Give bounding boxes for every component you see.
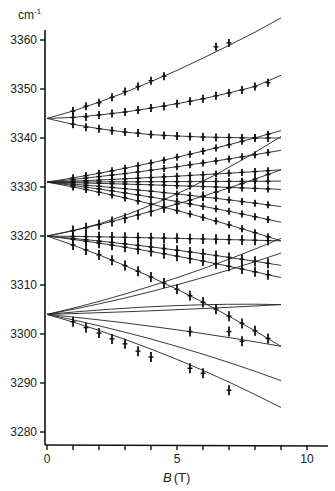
zeeman-fan-chart: 328032903300331033203330334033503360 051… — [0, 0, 335, 491]
y-tick-labels: 328032903300331033203330334033503360 — [10, 33, 37, 439]
y-tick-label: 3360 — [10, 33, 37, 47]
y-tick-label: 3300 — [10, 327, 37, 341]
x-axis — [45, 445, 328, 446]
y-tick-label: 3350 — [10, 82, 37, 96]
y-tick-label: 3290 — [10, 376, 37, 390]
x-axis-label: B(T) — [163, 470, 190, 485]
y-tick-label: 3280 — [10, 425, 37, 439]
y-tick-label: 3330 — [10, 180, 37, 194]
x-tick-label: 0 — [44, 452, 51, 466]
y-tick-label: 3310 — [10, 278, 37, 292]
fit-curve — [47, 314, 281, 346]
y-axis-unit: cm-1 — [18, 7, 42, 22]
y-tick-label: 3340 — [10, 131, 37, 145]
axes — [45, 30, 328, 446]
x-tick-labels: 0510 — [44, 452, 314, 466]
y-tick-label: 3320 — [10, 229, 37, 243]
fit-curve — [47, 75, 281, 118]
data-points — [71, 39, 271, 395]
x-tick-label: 10 — [300, 452, 314, 466]
fit-curve — [47, 314, 281, 380]
x-tick-label: 5 — [174, 452, 181, 466]
